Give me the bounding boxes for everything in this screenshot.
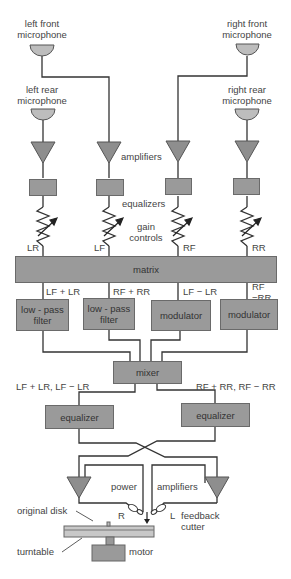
mic-left-rear-icon [31,109,55,120]
motor-block [92,545,125,561]
modulator-2: modulator [220,299,278,330]
label-power-amplifiers: amplifiers [157,481,198,492]
label-motor: motor [129,546,153,557]
mic-right-front-icon [236,44,259,55]
label-original-disk: original disk [17,505,67,516]
label-rf-plus-rr: RF + RR [113,286,150,297]
label-turntable: turntable [17,546,54,557]
equalizer-lr [29,179,57,196]
label-l: L [170,510,175,521]
equalizer-left: equalizer [45,405,114,429]
label-rr: RR [252,242,266,253]
label-lr: LR [27,242,39,253]
label-r: R [118,510,125,521]
stylus-icon [144,519,150,524]
matrix-block: matrix [15,256,277,283]
turntable-platter [64,526,154,537]
equalizer-lf [96,179,124,196]
label-left-bus: LF + LR, LF − LR [16,381,89,392]
low-pass-filter-1: low - pass filter [16,299,69,331]
mic-right-rear-icon [235,109,259,120]
label-power: power [111,481,137,492]
label-gain-controls: gain controls [126,221,166,243]
low-pass-filter-2: low - pass filter [83,298,135,330]
mixer-block: mixer [113,361,182,384]
modulator-1: modulator [151,300,211,331]
label-rf: RF [183,242,196,253]
equalizer-rf [165,178,192,195]
mic-left-front-icon [30,45,54,56]
label-right-bus: RF + RR, RF − RR [196,381,276,392]
label-amplifiers: amplifiers [121,151,162,162]
label-lf: LF [94,242,105,253]
label-lf-plus-lr: LF + LR [46,286,80,297]
label-right-front-mic: right front microphone [217,18,277,40]
label-equalizers: equalizers [122,198,165,209]
equalizer-right: equalizer [181,403,250,427]
label-lf-minus-lr: LF − LR [183,286,217,297]
label-right-rear-mic: right rear microphone [217,84,277,106]
label-left-front-mic: left front microphone [12,18,72,40]
label-left-rear-mic: left rear microphone [12,84,72,106]
label-feedback-cutter: feedback cutter [181,510,220,532]
equalizer-rr [233,178,260,195]
